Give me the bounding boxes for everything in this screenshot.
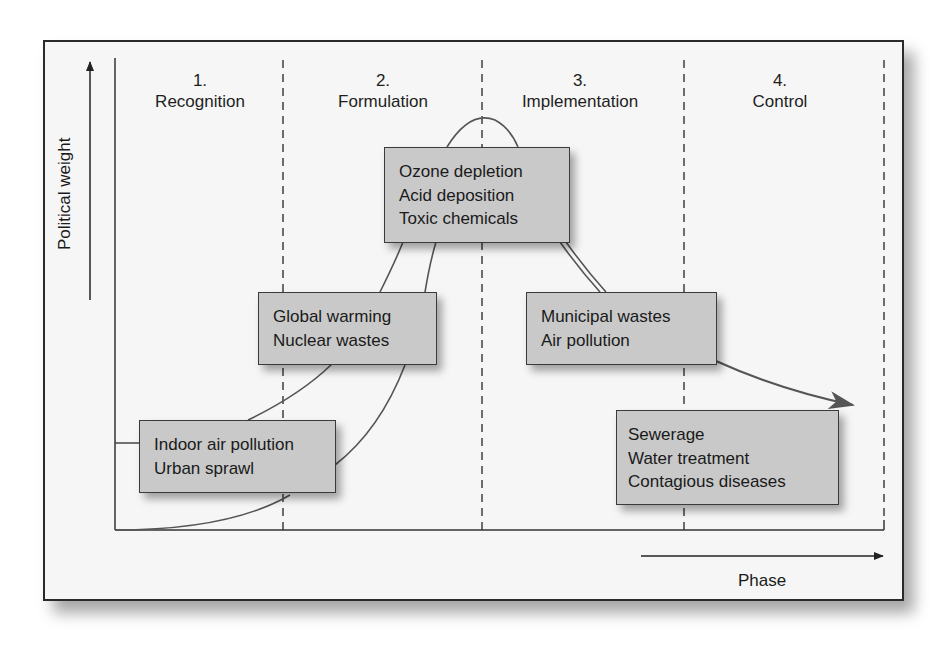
curve-left-upper-1 [380,242,403,292]
curve-outer-lower [335,365,405,465]
phase-label-control: 4. Control [730,70,830,112]
issue-item: Toxic chemicals [399,207,569,231]
issue-box-formulation: Global warming Nuclear wastes [258,292,437,365]
curve-left-upper-2 [425,242,436,292]
issue-item: Indoor air pollution [154,433,335,457]
issue-item: Acid deposition [399,184,569,208]
curve-inner [115,495,290,530]
issue-box-recognition: Indoor air pollution Urban sprawl [139,420,336,493]
phase-name: Implementation [522,92,638,111]
issue-item: Sewerage [628,423,838,447]
curve-inner-lower [248,364,332,420]
phase-label-recognition: 1. Recognition [140,70,260,112]
issue-box-implementation: Municipal wastes Air pollution [526,292,717,365]
issue-item: Urban sprawl [154,457,335,481]
issue-item: Global warming [273,305,436,329]
phase-label-formulation: 2. Formulation [323,70,443,112]
phase-number: 1. [193,71,207,90]
issue-item: Municipal wastes [541,305,716,329]
decline-arrow [716,361,853,405]
issue-item: Water treatment [628,447,838,471]
phase-label-implementation: 3. Implementation [510,70,650,112]
phase-number: 2. [376,71,390,90]
phase-name: Control [753,92,808,111]
issue-item: Contagious diseases [628,470,838,494]
phase-number: 4. [773,71,787,90]
curve-right-2 [566,242,606,292]
issue-box-peak: Ozone depletion Acid deposition Toxic ch… [384,147,570,243]
y-axis-label: Political weight [55,90,77,250]
phase-name: Recognition [155,92,245,111]
issue-box-control: Sewerage Water treatment Contagious dise… [616,410,839,505]
phase-name: Formulation [338,92,428,111]
issue-item: Nuclear wastes [273,329,436,353]
issue-item: Ozone depletion [399,160,569,184]
phase-number: 3. [573,71,587,90]
issue-item: Air pollution [541,329,716,353]
x-axis-label: Phase [738,571,786,591]
curve-right-1 [560,242,600,292]
